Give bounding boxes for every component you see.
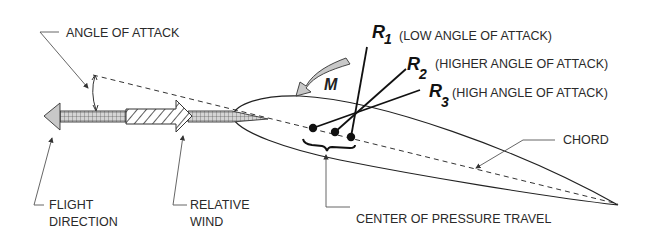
relative-wind-arrow — [126, 100, 192, 132]
svg-text:1: 1 — [384, 31, 392, 47]
flight-direction-leader — [34, 138, 52, 205]
moment-arrow — [296, 58, 350, 96]
svg-text:3: 3 — [441, 94, 449, 110]
relative-wind-leader — [173, 136, 187, 205]
angle-of-attack-leader — [40, 32, 88, 88]
cp-dot-r1 — [347, 133, 355, 141]
relative-wind-label-line1: RELATIVE — [190, 198, 250, 212]
center-of-pressure-leader — [326, 155, 350, 207]
r3-label: R 3 (HIGH ANGLE OF ATTACK) — [429, 81, 608, 110]
cp-travel-brace — [303, 139, 355, 151]
chord-label: CHORD — [563, 133, 609, 147]
r3-line — [313, 90, 420, 128]
center-of-pressure-label: CENTER OF PRESSURE TRAVEL — [356, 212, 551, 226]
flight-direction-label-line2: DIRECTION — [49, 215, 118, 229]
svg-text:(HIGH ANGLE OF ATTACK): (HIGH ANGLE OF ATTACK) — [452, 86, 608, 100]
airfoil-outline — [232, 96, 618, 205]
moment-label: M — [324, 76, 338, 93]
airfoil-diagram: ANGLE OF ATTACK M R 1 (LOW ANGLE OF ATTA… — [0, 0, 671, 250]
r2-label: R 2 (HIGHER ANGLE OF ATTACK) — [407, 54, 608, 82]
cp-dot-r3 — [309, 124, 317, 132]
r2-line — [335, 69, 406, 132]
r1-label: R 1 (LOW ANGLE OF ATTACK) — [372, 22, 552, 47]
svg-text:(LOW ANGLE OF ATTACK): (LOW ANGLE OF ATTACK) — [399, 29, 552, 43]
relative-wind-label-line2: WIND — [190, 215, 223, 229]
flight-direction-label-line1: FLIGHT — [49, 198, 94, 212]
r1-line — [351, 47, 367, 137]
angle-of-attack-label: ANGLE OF ATTACK — [66, 26, 180, 40]
svg-text:2: 2 — [418, 66, 427, 82]
svg-text:(HIGHER ANGLE OF ATTACK): (HIGHER ANGLE OF ATTACK) — [435, 57, 608, 71]
cp-dot-r2 — [331, 128, 339, 136]
